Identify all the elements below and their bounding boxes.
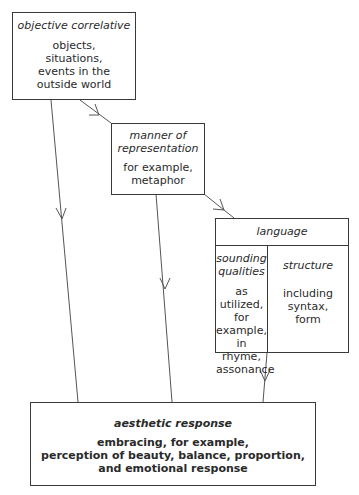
column-body: including syntax, form [268, 287, 348, 326]
edge-oc-to-ar [51, 100, 78, 402]
language-columns: sounding qualities as utilized, for exam… [216, 246, 348, 352]
edge-oc-to-mr [80, 100, 111, 123]
node-title: objective correlative [13, 19, 135, 32]
node-body: embracing, for example, perception of be… [31, 436, 315, 475]
node-title: language [216, 219, 348, 246]
column-body: as utilized, for example, in rhyme, asso… [216, 285, 267, 376]
node-body: objects, situations, events in the outsi… [13, 39, 135, 91]
node-body: for example, metaphor [112, 161, 204, 187]
node-objective-correlative: objective correlative objects, situation… [12, 12, 136, 100]
edge-mr-to-ar [156, 194, 172, 402]
edge-mr-to-lang [204, 194, 234, 218]
node-manner-of-representation: manner of representation for example, me… [111, 123, 205, 195]
column-sounding-qualities: sounding qualities as utilized, for exam… [216, 246, 268, 352]
node-language: language sounding qualities as utilized,… [215, 218, 349, 353]
node-title: aesthetic response [31, 417, 315, 430]
arrowhead-icon [160, 278, 170, 289]
column-title: structure [268, 259, 348, 272]
node-aesthetic-response: aesthetic response embracing, for exampl… [30, 402, 316, 486]
column-structure: structure including syntax, form [268, 246, 348, 352]
node-title: manner of representation [112, 129, 204, 155]
column-title: sounding qualities [216, 252, 267, 278]
